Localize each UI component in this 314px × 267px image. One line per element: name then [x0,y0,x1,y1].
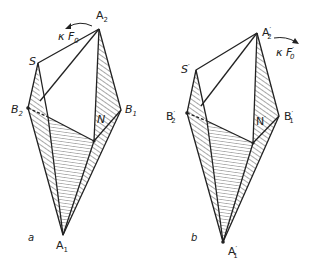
point-A1 [221,240,225,244]
label-S: S [29,56,36,67]
label-N: N [97,114,105,125]
label-kappa-F0-prime: κ F′0 [276,47,294,58]
point-N [251,141,254,144]
rotation-arrow-b [274,38,296,43]
point-B2 [26,106,30,110]
arrowhead-left [65,23,71,29]
label-A2: A2 [96,10,108,21]
label-A1-prime: A′1 [228,246,238,257]
figure-a-polyhedron [26,23,121,235]
label-A2-prime: A′2 [262,27,272,38]
label-kappa-F0: κ F0 [58,31,79,42]
label-S-prime: S′ [181,64,190,75]
rotation-arrow-a [68,23,92,27]
label-N-prime: N′ [256,116,266,127]
label-B1: B1 [125,104,137,115]
edge-A2-inner [201,33,257,106]
point-N [92,139,95,142]
point-B2 [185,111,189,115]
arrowhead-right [292,38,299,44]
caption-a: a [28,233,34,243]
caption-b: b [191,233,197,243]
label-B2: B2 [11,104,23,115]
label-B2-prime: B′2 [166,111,176,122]
label-A1: A1 [56,240,68,251]
figure-b-polyhedron [185,33,299,244]
label-B1-prime: B′1 [284,111,294,122]
